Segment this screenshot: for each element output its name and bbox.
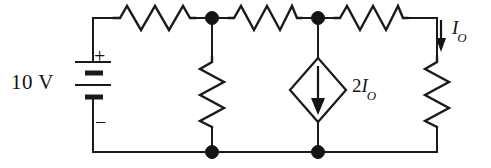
dependent-source-label: 2IO: [352, 76, 377, 99]
node-bottom-left: [206, 146, 219, 159]
resistor-shunt-right: [425, 56, 449, 128]
resistor-shunt-left: [200, 56, 224, 128]
dependent-source-arrow-head: [311, 98, 325, 115]
node-bottom-middle: [312, 146, 325, 159]
resistor-top-left: [113, 6, 196, 30]
dependent-current-source: [290, 58, 346, 122]
polarity-minus-label: −: [95, 112, 106, 132]
node-top-middle: [312, 12, 325, 25]
resistor-top-right: [334, 6, 408, 30]
output-current-subscript: O: [457, 30, 466, 45]
polarity-plus-label: +: [94, 46, 105, 66]
resistor-top-middle: [228, 6, 302, 30]
dependent-source-coefficient: 2: [352, 75, 362, 96]
dependent-source-subscript: O: [367, 88, 376, 103]
node-top-left: [206, 12, 219, 25]
circuit-diagram: 10 V + − IO 2IO: [0, 0, 491, 168]
voltage-source-label: 10 V: [11, 72, 54, 93]
voltage-source-battery: [75, 62, 111, 108]
circuit-schematic-svg: [0, 0, 491, 168]
output-current-label: IO: [452, 18, 468, 41]
